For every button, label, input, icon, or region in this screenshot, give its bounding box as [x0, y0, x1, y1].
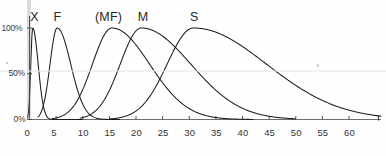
distribution-curve [38, 28, 120, 120]
x-tick-label: 45 [264, 128, 275, 138]
y-tick-label: 100% [2, 24, 23, 33]
chart-container: XF(MF)MS 0%50%100% 051015202530354045505… [0, 0, 386, 156]
distribution-curve [80, 28, 295, 119]
curve-label-x: X [30, 11, 39, 24]
y-tick-label: 50% [9, 69, 25, 78]
distribution-curve [52, 28, 253, 119]
x-tick-label: 0 [25, 128, 30, 138]
x-tick-label: 10 [78, 128, 89, 138]
curve-label-mf: (MF) [95, 11, 122, 24]
x-tick-label: 50 [291, 128, 302, 138]
x-tick-label: 5 [51, 128, 56, 138]
curve-label-f: F [54, 11, 62, 24]
x-tick-label: 25 [158, 128, 169, 138]
x-tick-label: 55 [317, 128, 328, 138]
x-tick-label: 40 [238, 128, 249, 138]
x-tick-label: 15 [104, 128, 115, 138]
distribution-curve [109, 28, 381, 119]
x-tick-label: 30 [184, 128, 195, 138]
x-tick-label: 35 [211, 128, 222, 138]
curve-label-m: M [138, 11, 149, 24]
x-tick-label: 20 [131, 128, 142, 138]
curve-label-s: S [190, 11, 199, 24]
curve-group [27, 28, 381, 120]
y-tick-label: 0% [14, 115, 26, 124]
x-tick-label: 60 [344, 128, 355, 138]
